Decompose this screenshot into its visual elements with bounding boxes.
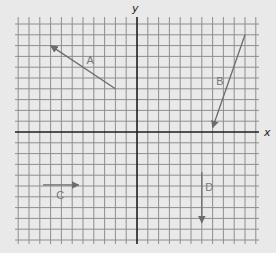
y-axis-label: y: [131, 2, 139, 15]
vector-label: D: [205, 181, 213, 193]
vector-b: B: [213, 35, 245, 128]
vector-diagram: x y ABCD: [0, 0, 276, 253]
vector-d: D: [202, 172, 214, 223]
vector-c: C: [43, 185, 79, 201]
vector-label: B: [216, 75, 223, 87]
vectors: ABCD: [43, 35, 245, 223]
vector-label: A: [87, 54, 95, 66]
vector-label: C: [56, 189, 64, 201]
x-axis-label: x: [263, 126, 271, 139]
